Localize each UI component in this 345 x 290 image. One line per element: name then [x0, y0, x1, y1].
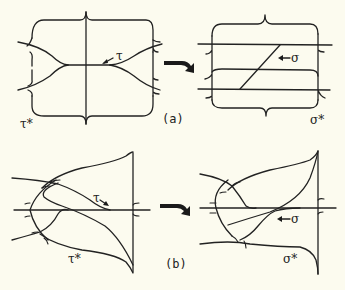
tau-label: τ [116, 49, 123, 63]
tick [210, 182, 246, 248]
boundary-bottom [212, 100, 318, 116]
transition-arrow-b [160, 204, 190, 216]
tau-pointer-arrowhead [102, 59, 108, 64]
panel-a-left-diagram: τ τ* [18, 12, 162, 131]
horizontal-line-upper [198, 44, 332, 45]
boundary-top [32, 12, 153, 40]
transition-arrow-a [164, 61, 194, 73]
arrow-icon [160, 204, 190, 216]
panel-b-right-diagram: σ σ* [200, 151, 336, 274]
curve-lower-lens [40, 234, 133, 273]
sigma-pointer-arrowhead [277, 216, 282, 222]
tau-label: τ [93, 191, 100, 205]
panel-a-right-diagram: σ σ* [198, 15, 332, 127]
boundary-left [205, 36, 212, 100]
boundary-left-upper [27, 38, 32, 66]
caption-b: (b) [165, 257, 187, 271]
middle-loop [212, 69, 318, 76]
tau-star-label: τ* [68, 252, 81, 266]
boundary-left-lower [28, 70, 32, 96]
cusp-tick-lower [133, 214, 139, 216]
sigma-pointer-arrowhead [278, 55, 283, 61]
cusp-tick-lower [318, 212, 323, 214]
sigma-curve [240, 45, 280, 89]
sigma-star-label: σ* [283, 252, 297, 266]
panel-b-left-diagram: τ τ* [12, 152, 150, 273]
sigma-label: σ [291, 51, 299, 65]
boundary-top [212, 15, 318, 36]
sigma-label: σ [291, 212, 299, 226]
curve-upper-left [18, 42, 68, 65]
curve-incoming-bottom [12, 210, 68, 241]
curve-incoming-bottom [200, 242, 318, 274]
horizontal-line-lower [198, 89, 330, 90]
cusp-tick-upper [133, 203, 139, 205]
tau-pointer-arrowhead [103, 201, 109, 206]
cusp-tick-upper [318, 199, 324, 200]
boundary-bottom [32, 96, 153, 124]
curve-inner-top [43, 183, 133, 265]
curve-lower-left [18, 65, 68, 90]
curve-incoming-top [200, 174, 256, 208]
figure-canvas: τ τ* (a) σ σ* [0, 0, 345, 290]
arrow-icon [164, 61, 194, 73]
tau-star-label: τ* [20, 117, 33, 131]
curve-upper-lens [42, 152, 133, 188]
curve-upper-lens [228, 151, 318, 190]
caption-a: (a) [162, 112, 184, 126]
sigma-star-label: σ* [310, 113, 324, 127]
